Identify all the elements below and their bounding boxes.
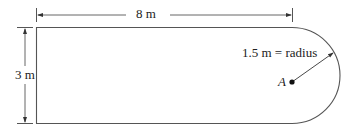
length-label: 8 m bbox=[136, 7, 156, 21]
diagram-canvas bbox=[0, 0, 360, 130]
point-a-dot bbox=[289, 79, 294, 84]
point-a-label: A bbox=[278, 75, 286, 89]
height-label: 3 m bbox=[15, 68, 35, 82]
radius-label: 1.5 m = radius bbox=[242, 46, 317, 60]
plate-outline bbox=[37, 28, 341, 124]
